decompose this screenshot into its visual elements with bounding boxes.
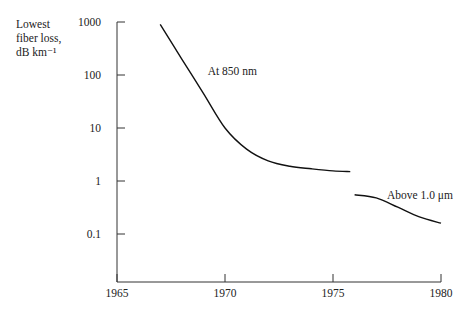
x-tick-label: 1980	[430, 287, 453, 299]
x-tick-label: 1975	[322, 287, 345, 299]
x-tick-label: 1970	[214, 287, 237, 299]
series-line	[160, 24, 350, 171]
line-chart: 10001001010.11965197019751980At 850 nmAb…	[0, 0, 459, 309]
series-annotation: At 850 nm	[208, 65, 257, 77]
y-tick-label: 1000	[78, 16, 101, 28]
series-annotation: Above 1.0 μm	[387, 189, 453, 202]
y-tick-label: 10	[90, 122, 102, 134]
y-tick-label: 1	[95, 175, 101, 187]
x-tick-label: 1965	[106, 287, 129, 299]
y-tick-label: 100	[84, 69, 102, 81]
y-tick-label: 0.1	[87, 228, 102, 240]
